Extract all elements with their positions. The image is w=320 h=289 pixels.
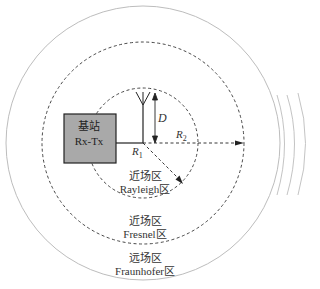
fraunhofer-zone-cn: 远场区 <box>105 252 185 265</box>
fresnel-zone-en: Fresnel区 <box>110 228 180 241</box>
fresnel-zone-label: 近场区 Fresnel区 <box>110 215 180 241</box>
rayleigh-zone-label: 近场区 Rayleigh区 <box>110 170 180 196</box>
r2-label: R2 <box>176 128 187 145</box>
diagram-canvas <box>0 0 320 289</box>
fraunhofer-zone-en: Fraunhofer区 <box>105 265 185 278</box>
base-station-label: 基站 Rx-Tx <box>64 119 114 149</box>
r2-letter: R <box>176 128 183 140</box>
rayleigh-zone-en: Rayleigh区 <box>110 183 180 196</box>
r1-subscript: 1 <box>139 151 143 160</box>
base-station-label-en: Rx-Tx <box>64 134 114 149</box>
r2-subscript: 2 <box>183 134 187 143</box>
rayleigh-zone-cn: 近场区 <box>110 170 180 183</box>
d-label: D <box>158 112 167 125</box>
fraunhofer-zone-label: 远场区 Fraunhofer区 <box>105 252 185 278</box>
r2-arrow <box>143 141 244 146</box>
base-station-label-cn: 基站 <box>64 119 114 134</box>
antenna-icon <box>136 92 150 105</box>
r1-label: R1 <box>132 145 143 162</box>
r1-letter: R <box>132 145 139 157</box>
fresnel-zone-cn: 近场区 <box>110 215 180 228</box>
radiation-waves-icon <box>277 93 306 195</box>
d-dimension-arrow <box>153 93 158 143</box>
